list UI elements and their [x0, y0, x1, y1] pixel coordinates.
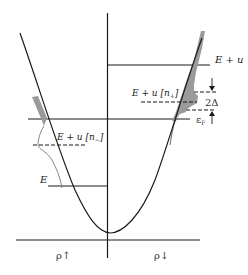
- label-two-delta: 2Δ: [205, 97, 219, 108]
- band-diagram: E + u E + u [n+] 2Δ εF E + u [n−] E ρ↑ ρ…: [0, 0, 248, 275]
- arrow-down-icon: [209, 86, 215, 91]
- label-e: E: [39, 174, 48, 185]
- label-e-plus-u: E + u: [214, 54, 243, 65]
- shaded-dos-left: [32, 96, 47, 126]
- label-rho-up: ρ↑: [56, 250, 70, 261]
- arrow-up-icon: [209, 111, 215, 116]
- label-fermi: εF: [196, 114, 205, 126]
- label-e-plus-u-n-plus: E + u [n+]: [131, 88, 179, 99]
- label-rho-down: ρ↓: [154, 250, 168, 261]
- dispersion-parabola: [20, 33, 202, 233]
- label-e-plus-u-n-minus: E + u [n−]: [56, 132, 104, 143]
